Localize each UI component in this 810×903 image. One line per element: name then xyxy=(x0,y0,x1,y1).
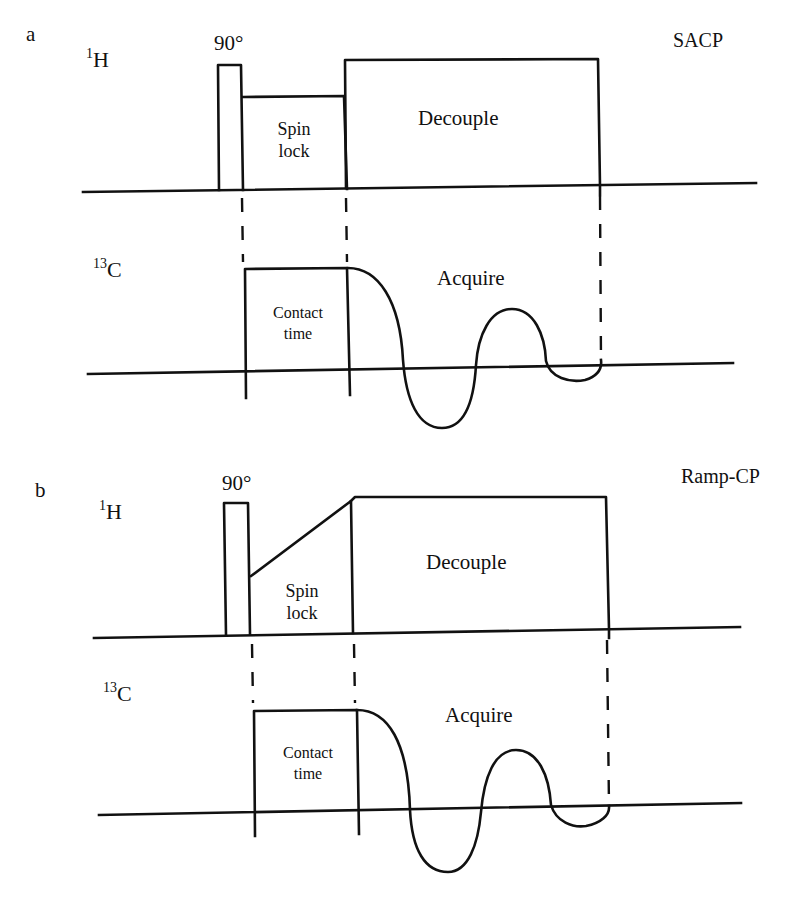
pulse-sequence-diagram xyxy=(0,0,810,903)
element-symbol: C xyxy=(107,257,122,282)
panel-a-decouple-label: Decouple xyxy=(418,106,498,131)
panel-a-sequence-name: SACP xyxy=(673,29,723,52)
panel-b-13c-label: 13C xyxy=(103,680,132,707)
label-line: time xyxy=(262,323,334,344)
panel-a-90-pulse xyxy=(218,65,243,190)
panel-b-90-pulse xyxy=(224,503,250,635)
mass-number: 13 xyxy=(93,256,107,271)
element-symbol: H xyxy=(93,47,109,72)
panel-a-13c-label: 13C xyxy=(93,256,122,283)
label-line: Contact xyxy=(272,742,344,763)
label-line: lock xyxy=(262,140,326,162)
panel-b-90-label: 90° xyxy=(222,471,251,496)
panel-a-fid xyxy=(348,268,601,428)
panel-b-fid xyxy=(357,710,609,872)
element-symbol: C xyxy=(117,681,132,706)
label-line: Contact xyxy=(262,302,334,323)
element-symbol: H xyxy=(106,499,122,524)
mass-number: 1 xyxy=(99,498,106,513)
panel-a-acquire-label: Acquire xyxy=(437,266,505,291)
panel-b-contact-time-label: Contact time xyxy=(272,742,344,784)
panel-b-sequence-name: Ramp-CP xyxy=(681,465,760,488)
mass-number: 13 xyxy=(103,680,117,695)
label-line: Spin xyxy=(270,580,334,602)
panel-a-90-label: 90° xyxy=(214,31,243,56)
panel-b-decouple-label: Decouple xyxy=(426,550,506,575)
panel-b-letter: b xyxy=(35,478,46,503)
label-line: lock xyxy=(270,602,334,624)
mass-number: 1 xyxy=(86,46,93,61)
panel-b-1h-label: 1H xyxy=(99,498,122,525)
panel-b-acquire-label: Acquire xyxy=(445,703,513,728)
panel-a-1h-baseline xyxy=(83,183,756,192)
panel-a-13c-baseline xyxy=(88,363,733,374)
panel-a-1h-label: 1H xyxy=(86,46,109,73)
panel-a-letter: a xyxy=(26,22,35,47)
label-line: time xyxy=(272,763,344,784)
panel-b-1h-baseline xyxy=(94,627,740,638)
label-line: Spin xyxy=(262,118,326,140)
panel-a-spin-lock-label: Spin lock xyxy=(262,118,326,162)
panel-b-spin-lock-label: Spin lock xyxy=(270,580,334,624)
panel-a-contact-time-label: Contact time xyxy=(262,302,334,344)
panel-b xyxy=(94,497,741,872)
panel-b-13c-baseline xyxy=(99,803,741,815)
